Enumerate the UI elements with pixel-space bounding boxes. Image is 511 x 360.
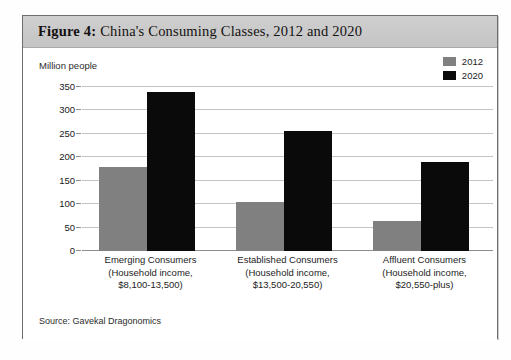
page-title: Figure 4: China's Consuming Classes, 201… — [23, 23, 362, 40]
bar-2012-group-1 — [99, 167, 147, 251]
x-axis-category-labels: Emerging Consumers(Household income,$8,1… — [82, 254, 493, 300]
y-tick-mark — [76, 86, 81, 87]
y-tick-mark — [76, 109, 81, 110]
y-tick-mark — [76, 133, 81, 134]
chart-area: Million people 20122020 0501001502002503… — [23, 48, 497, 340]
x-category-line: $20,550-plus) — [356, 279, 493, 292]
bar-2020-group-3 — [421, 162, 469, 251]
legend-item-2020: 2020 — [443, 70, 483, 81]
bar-2020-group-1 — [147, 92, 195, 251]
y-tick-mark — [76, 227, 81, 228]
bar-2020-group-2 — [284, 131, 332, 251]
legend-label: 2012 — [462, 56, 483, 67]
x-category-line: (Household income, — [356, 267, 493, 280]
y-axis-label: Million people — [39, 60, 97, 71]
bar-2012-group-3 — [373, 221, 421, 251]
x-category-line: Established Consumers — [219, 254, 356, 267]
y-tick-mark — [76, 180, 81, 181]
chart-legend: 20122020 — [443, 56, 483, 81]
bar-2012-group-2 — [236, 202, 284, 251]
x-category-line: (Household income, — [82, 267, 219, 280]
x-category-line: Emerging Consumers — [82, 254, 219, 267]
y-tick-mark — [76, 156, 81, 157]
x-category-line: (Household income, — [219, 267, 356, 280]
x-category-label-1: Emerging Consumers(Household income,$8,1… — [82, 254, 219, 292]
y-tick-mark — [76, 250, 81, 251]
y-tick-label: 50 — [64, 221, 75, 232]
x-category-line: Affluent Consumers — [356, 254, 493, 267]
y-tick-label: 300 — [59, 104, 75, 115]
y-tick-label: 350 — [59, 81, 75, 92]
x-category-line: $13,500-20,550) — [219, 279, 356, 292]
figure-number: Figure 4: — [38, 23, 96, 39]
legend-swatch-icon — [443, 57, 456, 66]
plot-region: 050100150200250300350 — [82, 87, 493, 251]
legend-label: 2020 — [462, 70, 483, 81]
figure-title-bar: Figure 4: China's Consuming Classes, 201… — [23, 16, 497, 48]
y-tick-label: 150 — [59, 174, 75, 185]
y-tick-label: 100 — [59, 198, 75, 209]
source-note: Source: Gavekal Dragonomics — [39, 316, 161, 326]
x-category-label-2: Established Consumers(Household income,$… — [219, 254, 356, 292]
legend-item-2012: 2012 — [443, 56, 483, 67]
bar-series-container — [82, 87, 493, 251]
legend-swatch-icon — [443, 71, 456, 80]
figure-page: Figure 4: China's Consuming Classes, 201… — [0, 0, 511, 360]
y-tick-mark — [76, 203, 81, 204]
figure-title-text: China's Consuming Classes, 2012 and 2020 — [96, 23, 362, 39]
x-category-line: $8,100-13,500) — [82, 279, 219, 292]
x-category-label-3: Affluent Consumers(Household income,$20,… — [356, 254, 493, 292]
y-tick-label: 200 — [59, 151, 75, 162]
figure-card: Figure 4: China's Consuming Classes, 201… — [22, 15, 498, 339]
y-tick-label: 0 — [70, 245, 75, 256]
y-tick-label: 250 — [59, 127, 75, 138]
